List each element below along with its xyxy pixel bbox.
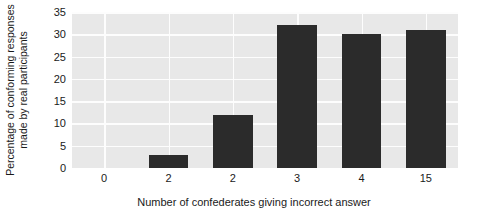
- x-axis-tick-label: 0: [101, 172, 107, 184]
- y-axis-title-line-1: Percentage of conforming responses: [4, 4, 17, 176]
- x-axis-tick-label: 15: [420, 172, 432, 184]
- x-axis-tick-labels: 0223415: [72, 172, 458, 190]
- y-axis-tick-label: 30: [54, 28, 66, 40]
- x-axis-tick-label: 2: [165, 172, 171, 184]
- bar: [277, 25, 317, 168]
- y-axis-tick-label: 5: [60, 140, 66, 152]
- bar-chart-figure: Percentage of conforming responses made …: [0, 0, 490, 221]
- y-axis-tick-labels: 05101520253035: [34, 12, 70, 168]
- y-axis-tick-label: 20: [54, 73, 66, 85]
- x-axis-title: Number of confederates giving incorrect …: [34, 196, 474, 208]
- y-axis-tick-label: 15: [54, 95, 66, 107]
- y-axis-title-line-2: made by real participants: [17, 4, 30, 176]
- y-axis-tick-label: 10: [54, 117, 66, 129]
- y-axis-tick-label: 25: [54, 51, 66, 63]
- x-axis-tick-label: 2: [230, 172, 236, 184]
- bar: [213, 115, 253, 168]
- y-axis-tick-label: 35: [54, 6, 66, 18]
- x-axis-tick-label: 4: [358, 172, 364, 184]
- bar: [149, 155, 189, 168]
- y-axis-title: Percentage of conforming responses made …: [0, 0, 34, 180]
- bar: [342, 34, 382, 168]
- plot-area: [72, 12, 458, 168]
- y-axis-tick-label: 0: [60, 162, 66, 174]
- x-axis-tick-label: 3: [294, 172, 300, 184]
- bar: [406, 30, 446, 168]
- bars-layer: [72, 12, 458, 168]
